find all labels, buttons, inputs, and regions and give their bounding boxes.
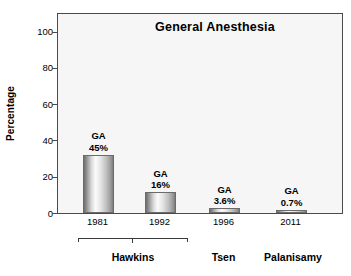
group-label-hawkins: Hawkins	[97, 250, 169, 264]
plot-inner: General Anesthesia GA 45% GA 16% GA 3.6%	[58, 14, 342, 213]
y-tick-label: 80	[19, 63, 53, 73]
y-tick-label: 40	[19, 136, 53, 146]
group-bracket-hawkins	[57, 236, 343, 246]
bar-annotation-value: 45%	[68, 142, 129, 154]
group-label-palanisamy: Palanisamy	[250, 250, 336, 264]
y-tick-label: 100	[19, 27, 53, 37]
plot-area: General Anesthesia GA 45% GA 16% GA 3.6%	[57, 13, 343, 214]
bracket-left-tick	[78, 238, 79, 242]
bar-annotation-value: 3.6%	[194, 195, 255, 207]
x-tick-label-1981: 1981	[67, 216, 128, 228]
x-axis-tick-labels: 1981 1992 1996 2011	[57, 216, 343, 232]
bar-annotation-1996: GA 3.6%	[194, 184, 255, 207]
y-tick-label: 20	[19, 172, 53, 182]
y-tick-label: 0	[19, 209, 53, 219]
bar-annotation-value: 0.7%	[261, 197, 322, 209]
bracket-right-tick	[187, 238, 188, 242]
bar-annotation-1992: GA 16%	[130, 168, 191, 191]
bracket-center-tick	[132, 239, 133, 243]
bar-annotation-title: GA	[68, 130, 129, 142]
bar-1992	[145, 192, 176, 213]
bar-1981	[83, 155, 114, 213]
bracket-horizontal	[78, 238, 188, 239]
x-tick-label-1996: 1996	[193, 216, 254, 228]
x-tick-label-1992: 1992	[129, 216, 190, 228]
bar-annotation-title: GA	[194, 184, 255, 196]
bar-1996	[209, 208, 240, 213]
group-labels: Hawkins Tsen Palanisamy	[57, 250, 343, 270]
y-axis-title-text: Percentage	[5, 86, 16, 141]
y-axis-tick-labels: 0 20 40 60 80 100	[15, 0, 53, 276]
y-tick-label: 60	[19, 100, 53, 110]
bar-2011	[276, 210, 307, 213]
chart-title: General Anesthesia	[58, 20, 342, 34]
bar-annotation-1981: GA 45%	[68, 130, 129, 153]
x-tick-label-2011: 2011	[260, 216, 321, 228]
chart-container: Percentage 0 20 40 60 80 100 General Ane…	[0, 0, 351, 276]
bar-annotation-2011: GA 0.7%	[261, 185, 322, 208]
group-label-tsen: Tsen	[193, 250, 254, 264]
bar-annotation-value: 16%	[130, 179, 191, 191]
bar-annotation-title: GA	[130, 168, 191, 180]
bar-annotation-title: GA	[261, 185, 322, 197]
